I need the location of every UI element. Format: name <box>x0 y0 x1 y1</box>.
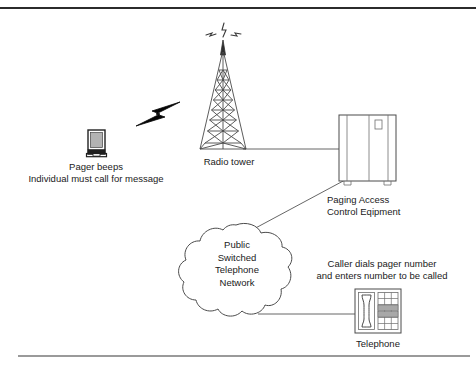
equipment-caption-line2: Control Eqipment <box>327 206 400 218</box>
equipment-cabinet-icon <box>339 115 396 185</box>
radio-waves-icon <box>206 23 241 37</box>
equipment-caption-line1: Paging Access <box>327 194 389 206</box>
pager-device-icon <box>87 130 107 157</box>
lightning-bolt-icon <box>136 102 180 126</box>
telephone-caption: Telephone <box>356 338 400 350</box>
cloud-label-line1: Public <box>215 239 259 252</box>
pager-caption-line1: Pager beeps <box>69 161 123 173</box>
paging-system-diagram <box>0 0 476 375</box>
figure-root: Pager beeps Individual must call for mes… <box>0 0 476 375</box>
cloud-label-line2: Switched <box>215 252 259 265</box>
caller-note-line1: Caller dials pager number <box>328 258 437 270</box>
telephone-icon <box>355 289 401 333</box>
radio-tower-icon <box>200 23 246 149</box>
radio-tower-caption: Radio tower <box>204 156 255 168</box>
caller-note-line2: and enters number to be called <box>317 270 448 282</box>
cloud-label-line3: Telephone <box>215 264 259 277</box>
cloud-label-line4: Network <box>215 277 259 290</box>
cloud-label: Public Switched Telephone Network <box>215 239 259 289</box>
pager-caption-line2: Individual must call for message <box>28 173 163 185</box>
